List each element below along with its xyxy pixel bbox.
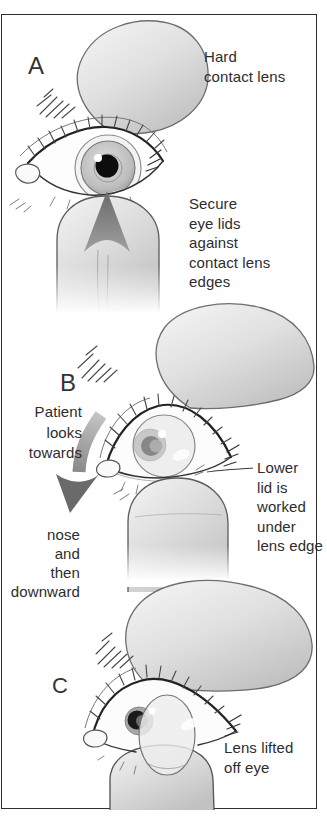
upper-thumb-a	[77, 21, 208, 134]
hard-contact-lens-label: Hard contact lens	[204, 47, 285, 87]
nose-downward-label: nose and then downward	[10, 525, 80, 601]
panel-label-a: A	[28, 54, 44, 78]
lower-lid-label: Lower lid is worked under lens edge	[257, 458, 323, 556]
tear-duct-c	[84, 730, 107, 747]
displaced-contact-lens-b	[133, 415, 195, 477]
tear-duct-a	[16, 164, 40, 183]
tear-duct-b	[97, 460, 120, 477]
patient-looks-label: Patient looks towards	[10, 402, 82, 464]
secure-eyelids-label: Secure eye lids against contact lens edg…	[189, 194, 270, 292]
panel-label-c: C	[52, 674, 68, 698]
upper-thumb-b	[156, 304, 314, 409]
upper-thumb-c	[126, 580, 312, 691]
figure-canvas: A Hard contact lens Secure eye lids agai…	[0, 0, 327, 818]
eyebrow-b	[78, 346, 117, 382]
eye-highlight-a	[94, 154, 102, 162]
eyebrow-a	[37, 89, 75, 118]
eye-highlight-c	[149, 708, 156, 715]
lens-lifted-label: Lens lifted off eye	[224, 738, 293, 778]
eye-highlight-b	[158, 430, 166, 438]
panel-label-b: B	[60, 371, 76, 395]
